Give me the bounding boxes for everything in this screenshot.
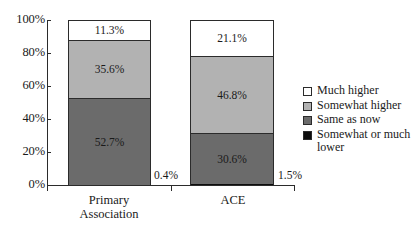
y-axis-label-60: 60% (1, 79, 45, 91)
bar-ace: 21.1% 46.8% 30.6% (190, 20, 274, 185)
x-tick-middle (171, 186, 172, 191)
bar-segment-ace-lower (191, 184, 273, 185)
bar-segment-primary-much-higher: 11.3% (69, 21, 150, 40)
legend-swatch-lower-icon (303, 131, 312, 140)
bar-segment-ace-same-as-now: 30.6% (191, 133, 273, 184)
bar-segment-primary-same-as-now: 52.7% (69, 98, 150, 185)
legend-item-same-as-now[interactable]: Same as now (303, 113, 415, 127)
x-category-ace-line1: ACE (172, 194, 294, 208)
x-category-primary-association-line1: Primary (48, 194, 170, 208)
bar-segment-ace-somewhat-higher: 46.8% (191, 56, 273, 133)
y-tick-100 (47, 20, 51, 21)
y-axis-line (47, 20, 48, 185)
x-category-primary-association-line2: Association (48, 208, 170, 222)
stacked-bar-chart: 100% 80% 60% 40% 20% 0% Primary Associat… (0, 0, 415, 233)
bar-segment-primary-somewhat-higher-label: 35.6% (95, 63, 125, 75)
y-tick-80 (47, 53, 51, 54)
x-category-ace: ACE (172, 194, 294, 208)
legend: Much higher Somewhat higher Same as now … (303, 84, 415, 156)
y-axis-label-0: 0% (1, 178, 45, 190)
legend-label-somewhat-higher: Somewhat higher (317, 99, 401, 113)
legend-item-lower[interactable]: Somewhat or much lower (303, 128, 415, 155)
y-axis-label-40: 40% (1, 112, 45, 124)
x-category-primary-association: Primary Association (48, 194, 170, 221)
legend-swatch-somewhat-higher-icon (303, 102, 312, 111)
bar-segment-primary-lower-label: 0.4% (154, 169, 178, 181)
bar-segment-ace-much-higher: 21.1% (191, 21, 273, 56)
y-tick-20 (47, 152, 51, 153)
y-tick-60 (47, 86, 51, 87)
y-axis-label-80: 80% (1, 46, 45, 58)
y-axis-label-20: 20% (1, 145, 45, 157)
legend-item-somewhat-higher[interactable]: Somewhat higher (303, 99, 415, 113)
x-tick-start (47, 186, 48, 191)
legend-label-lower: Somewhat or much lower (317, 128, 415, 155)
legend-swatch-much-higher-icon (303, 87, 312, 96)
legend-label-same-as-now: Same as now (317, 113, 380, 127)
bar-segment-primary-much-higher-label: 11.3% (95, 24, 124, 36)
legend-swatch-same-as-now-icon (303, 116, 312, 125)
y-axis-label-100: 100% (1, 13, 45, 25)
legend-item-much-higher[interactable]: Much higher (303, 84, 415, 98)
bar-primary-association: 11.3% 35.6% 52.7% (68, 20, 151, 185)
bar-segment-ace-same-as-now-label: 30.6% (217, 153, 247, 165)
bar-segment-primary-somewhat-higher: 35.6% (69, 40, 150, 99)
bar-segment-ace-somewhat-higher-label: 46.8% (217, 89, 247, 101)
y-tick-40 (47, 119, 51, 120)
legend-label-much-higher: Much higher (317, 84, 379, 98)
bar-segment-primary-same-as-now-label: 52.7% (95, 136, 125, 148)
bar-segment-ace-lower-label: 1.5% (278, 169, 302, 181)
bar-segment-ace-much-higher-label: 21.1% (217, 32, 247, 44)
x-tick-end (294, 186, 295, 191)
